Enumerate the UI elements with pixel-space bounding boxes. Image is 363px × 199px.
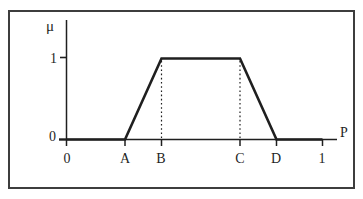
membership-function-figure: μ 1 0 0 A B C D 1 P bbox=[0, 0, 363, 199]
x-tick-label-d: D bbox=[271, 151, 281, 166]
x-tick-label-c: C bbox=[235, 151, 244, 166]
y-tick-label-0: 0 bbox=[49, 129, 56, 144]
y-axis-label: μ bbox=[46, 18, 54, 34]
x-tick-label-0: 0 bbox=[64, 151, 71, 166]
x-tick-label-a: A bbox=[120, 151, 131, 166]
figure-frame bbox=[9, 11, 354, 188]
x-tick-label-b: B bbox=[156, 151, 165, 166]
x-tick-label-1: 1 bbox=[319, 151, 326, 166]
membership-function-plot: μ 1 0 0 A B C D 1 P bbox=[0, 0, 363, 199]
x-axis-label: P bbox=[340, 125, 348, 140]
y-tick-label-1: 1 bbox=[50, 51, 57, 66]
